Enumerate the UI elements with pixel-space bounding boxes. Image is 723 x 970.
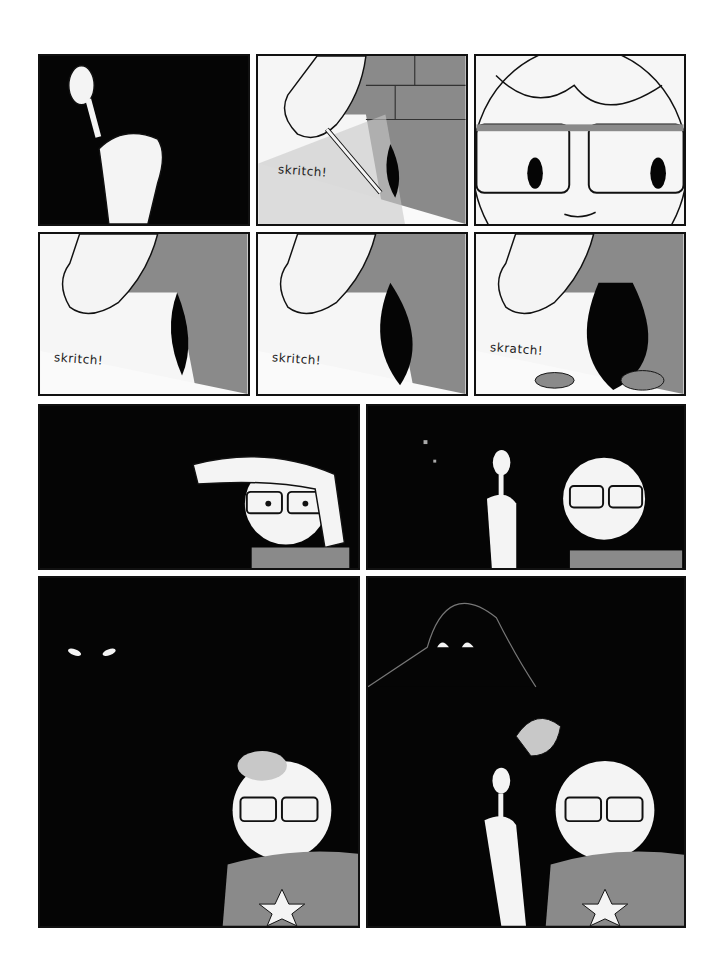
panel-1-spoon-hand [38,54,250,226]
creature-looming-scene [368,578,684,926]
creature-silhouette [368,603,536,686]
panel-3-face-closeup [474,54,686,226]
spoon-hand-illustration [40,56,248,224]
panel-4-scrape-wall: skritch! [38,232,250,396]
panel-8-holding-spoon [366,404,686,570]
panel-2-scrape-wall: skritch! [256,54,468,226]
creature-claw [516,718,560,756]
wall-scrape-illustration [258,56,466,224]
glowing-eyes-scene [40,578,358,926]
panel-10-creature-looms [366,576,686,928]
face-closeup-illustration [476,56,684,224]
eye-glow [67,647,82,657]
eye-glow [102,647,117,657]
panel-9-glowing-eyes [38,576,360,928]
wall-scrape-illustration [40,234,248,394]
character-wiping-brow [40,406,358,568]
panel-7-wiping-brow [38,404,360,570]
wall-scrape-illustration [476,234,684,394]
panel-5-scrape-wall: skritch! [256,232,468,396]
wall-scrape-illustration [258,234,466,394]
panel-6-scrape-wall: skratch! [474,232,686,396]
character-holding-spoon [368,406,684,568]
